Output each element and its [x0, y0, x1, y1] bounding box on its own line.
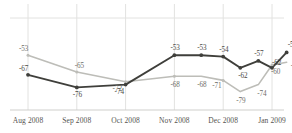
- data-point-label: -68: [197, 81, 206, 89]
- data-point-marker: [199, 53, 203, 57]
- x-axis-tick-label: Dec 2008: [196, 116, 250, 125]
- data-point-label: -53: [197, 44, 206, 52]
- data-point-label: -76: [73, 91, 82, 99]
- data-point-marker: [26, 73, 30, 77]
- data-point-label: -57: [254, 50, 263, 58]
- data-point-marker: [222, 79, 225, 82]
- line-chart: -67-76-74-53-53-54-62-57-62-51-53-65-72-…: [0, 0, 292, 133]
- data-point-label: -68: [170, 81, 179, 89]
- data-point-marker: [285, 51, 289, 55]
- data-point-label: -60: [271, 68, 280, 76]
- data-point-marker: [238, 66, 242, 70]
- data-point-marker: [27, 54, 30, 57]
- x-axis-tick-label: Oct 2008: [99, 116, 153, 125]
- data-point-label: -67: [19, 65, 28, 73]
- data-point-label: -72: [113, 85, 122, 93]
- x-axis-tick-label: Nov 2008: [147, 116, 201, 125]
- data-point-marker: [173, 75, 176, 78]
- data-point-label: -62: [238, 72, 247, 80]
- data-point-marker: [75, 71, 78, 74]
- data-point-marker: [256, 59, 260, 63]
- data-point-label: -74: [257, 90, 266, 98]
- data-point-label: -58: [291, 62, 292, 70]
- data-point-marker: [173, 53, 177, 57]
- data-point-label: -53: [19, 45, 28, 53]
- data-point-label: -62: [272, 59, 281, 67]
- x-axis-tick-label: Aug 2008: [1, 116, 55, 125]
- data-point-label: -54: [219, 46, 228, 54]
- chart-plot-area: [0, 0, 292, 133]
- data-point-marker: [124, 83, 128, 87]
- series-line-dark-series: [28, 52, 287, 87]
- data-point-label: -53: [170, 44, 179, 52]
- x-axis-tick-label: Sep 2008: [50, 116, 104, 125]
- data-point-label: -71: [212, 82, 221, 90]
- data-point-marker: [221, 55, 225, 59]
- x-axis-tick-label: Jan 2009: [245, 116, 292, 125]
- data-point-label: -51: [288, 41, 292, 49]
- data-point-label: -65: [75, 62, 84, 70]
- data-point-marker: [75, 86, 79, 90]
- data-point-label: -79: [236, 97, 245, 105]
